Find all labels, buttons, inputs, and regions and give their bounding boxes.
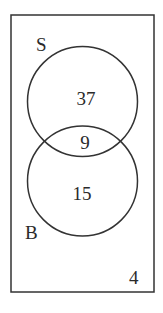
b-only-value: 15 [73,183,92,204]
outside-value: 4 [129,267,139,288]
universe-rectangle [11,15,154,292]
set-b-label: B [25,222,38,243]
intersection-value: 9 [80,132,90,153]
s-only-value: 37 [77,88,96,109]
venn-diagram: S 37 9 15 B 4 [0,0,163,313]
set-s-label: S [36,34,47,55]
